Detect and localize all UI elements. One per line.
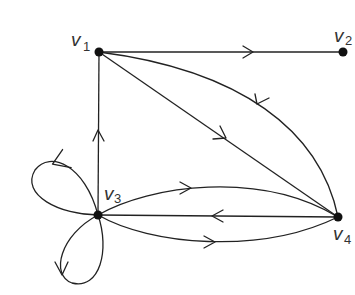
- label-v4: v 4: [333, 223, 351, 247]
- edge-v3-v4-upper: [98, 182, 338, 217]
- directed-graph: v 1 v 2 v 3 v 4: [0, 0, 355, 295]
- edge-v4-v3: [98, 210, 338, 222]
- edge-v3-loop-upper: [32, 149, 98, 215]
- vertex-v3: [94, 211, 103, 220]
- label-v3: v 3: [104, 183, 121, 206]
- svg-text:v: v: [333, 223, 344, 244]
- svg-text:v: v: [71, 29, 82, 50]
- vertex-v1: [95, 48, 104, 57]
- edge-v1-v2: [99, 46, 343, 58]
- label-v2: v 2: [334, 25, 352, 48]
- svg-text:v: v: [334, 25, 345, 46]
- vertex-v2: [339, 48, 348, 57]
- edge-v1-v4: [99, 52, 338, 217]
- edge-v3-v1: [93, 52, 104, 215]
- svg-text:2: 2: [345, 33, 352, 48]
- edge-v3-loop-lower: [55, 215, 103, 284]
- svg-text:1: 1: [83, 39, 90, 54]
- label-v1: v 1: [71, 29, 90, 54]
- vertex-v4: [334, 213, 343, 222]
- svg-text:3: 3: [114, 191, 121, 206]
- svg-text:4: 4: [344, 232, 351, 247]
